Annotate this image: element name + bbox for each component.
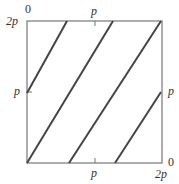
label-right-bottom-zero: 0 (168, 156, 174, 168)
label-right-mid-p: p (168, 85, 174, 97)
flow-line-1 (27, 21, 67, 93)
flow-line-4 (115, 92, 161, 163)
label-top-left-zero: 0 (25, 3, 31, 15)
label-top-mid-p: p (91, 5, 97, 17)
label-bottom-mid-p: p (91, 167, 97, 179)
diagram-canvas (0, 0, 179, 184)
label-left-top-2p: 2p (6, 15, 18, 27)
label-bottom-right-2p: 2p (155, 168, 167, 180)
flow-line-3 (69, 21, 161, 163)
flow-line-2 (27, 21, 113, 163)
label-left-mid-p: p (14, 85, 20, 97)
square-frame (27, 21, 162, 163)
